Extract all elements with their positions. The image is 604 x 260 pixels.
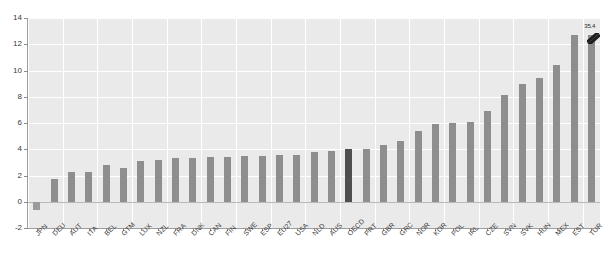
- bars-layer: 35.4: [28, 18, 600, 228]
- bar-irl[interactable]: [467, 122, 474, 202]
- bar-tur[interactable]: [588, 35, 595, 202]
- bar-mex[interactable]: [553, 65, 560, 202]
- y-tick-mark: [24, 44, 28, 45]
- y-tick-label: 0: [6, 198, 22, 206]
- bar-nld[interactable]: [311, 152, 318, 202]
- bar-swe[interactable]: [241, 156, 248, 202]
- bar-nor[interactable]: [415, 131, 422, 202]
- bar-lux[interactable]: [137, 161, 144, 202]
- y-tick-mark: [24, 97, 28, 98]
- bar-cze[interactable]: [484, 111, 491, 202]
- bar-oecd[interactable]: [345, 149, 352, 202]
- bar-svk[interactable]: [519, 84, 526, 202]
- bar-bel[interactable]: [103, 165, 110, 202]
- bar-nzl[interactable]: [155, 160, 162, 202]
- y-tick-mark: [24, 176, 28, 177]
- bar-esp[interactable]: [259, 156, 266, 202]
- y-tick-mark: [24, 71, 28, 72]
- bar-gbr[interactable]: [380, 145, 387, 201]
- y-tick-mark: [24, 202, 28, 203]
- y-tick-label: 8: [6, 93, 22, 101]
- bar-can[interactable]: [207, 157, 214, 202]
- bar-prt[interactable]: [363, 149, 370, 202]
- bar-fin[interactable]: [224, 157, 231, 202]
- bar-value-label-tur: 35.4: [584, 23, 595, 29]
- y-tick-label: 12: [6, 40, 22, 48]
- y-tick-label: 4: [6, 145, 22, 153]
- bar-aut[interactable]: [68, 172, 75, 202]
- bar-est[interactable]: [571, 35, 578, 202]
- y-tick-mark: [24, 149, 28, 150]
- y-tick-label: 10: [6, 67, 22, 75]
- bar-grc[interactable]: [397, 141, 404, 201]
- bar-eu27[interactable]: [276, 155, 283, 202]
- bar-deu[interactable]: [51, 179, 58, 201]
- bar-pol[interactable]: [449, 123, 456, 202]
- y-tick-mark: [24, 123, 28, 124]
- plot-area: 35.4: [28, 18, 600, 228]
- bar-fra[interactable]: [172, 158, 179, 201]
- y-tick-label: 2: [6, 172, 22, 180]
- bar-dnk[interactable]: [189, 158, 196, 201]
- bar-usa[interactable]: [293, 155, 300, 202]
- bar-aus[interactable]: [328, 151, 335, 202]
- y-tick-mark: [24, 18, 28, 19]
- bar-svn[interactable]: [501, 95, 508, 201]
- axis-break-marker: [587, 33, 600, 44]
- y-tick-label: 14: [6, 14, 22, 22]
- bar-jpn[interactable]: [33, 202, 40, 210]
- y-tick-label: 6: [6, 119, 22, 127]
- y-tick-label: -2: [6, 224, 22, 232]
- bar-ita[interactable]: [85, 172, 92, 202]
- bar-hun[interactable]: [536, 78, 543, 201]
- bar-kor[interactable]: [432, 124, 439, 201]
- bar-gtm[interactable]: [120, 168, 127, 202]
